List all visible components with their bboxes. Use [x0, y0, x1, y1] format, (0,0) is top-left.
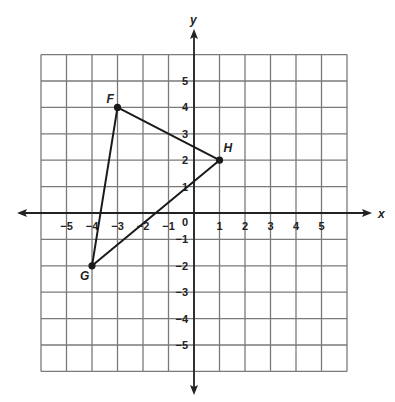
x-tick-label: −1	[162, 220, 175, 232]
y-tick-label: −4	[175, 313, 188, 325]
x-tick-label: −5	[60, 220, 73, 232]
x-tick-label: 5	[318, 220, 324, 232]
y-tick-label: 4	[182, 101, 189, 113]
point-h	[216, 157, 223, 164]
axes: xy	[17, 13, 386, 395]
origin-label: 0	[182, 216, 188, 228]
point-label-h: H	[224, 141, 233, 155]
y-tick-label: −1	[175, 233, 188, 245]
y-tick-label: −5	[175, 339, 188, 351]
point-label-g: G	[80, 269, 89, 283]
y-axis-label: y	[189, 13, 198, 27]
x-tick-label: 3	[267, 220, 273, 232]
x-axis-label: x	[377, 207, 386, 221]
y-tick-label: 2	[182, 154, 188, 166]
y-tick-label: −3	[175, 286, 188, 298]
point-f	[114, 104, 121, 111]
vertex-points: FGH	[80, 92, 233, 282]
y-tick-label: 5	[182, 75, 188, 87]
x-tick-label: 1	[216, 220, 222, 232]
x-tick-label: −3	[111, 220, 124, 232]
y-tick-label: 3	[182, 128, 188, 140]
point-g	[88, 262, 95, 269]
x-tick-label: 4	[293, 220, 300, 232]
y-tick-label: −2	[175, 260, 188, 272]
coordinate-plane: xy −5−4−3−2−112345−5−4−3−2−1123450 FGH	[0, 0, 395, 402]
point-label-f: F	[107, 92, 115, 106]
x-tick-label: 2	[242, 220, 248, 232]
